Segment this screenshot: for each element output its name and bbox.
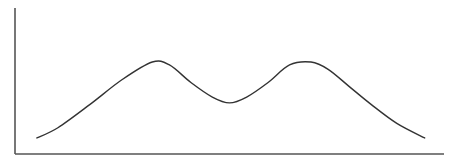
data-point-0-11 xyxy=(289,64,291,66)
data-point-0-10 xyxy=(267,81,269,83)
data-point-0-14 xyxy=(349,86,351,88)
data-point-0-8 xyxy=(229,102,231,104)
data-point-0-9 xyxy=(246,96,248,98)
line-chart xyxy=(0,0,454,161)
data-point-0-4 xyxy=(151,61,153,63)
data-point-0-0 xyxy=(36,137,38,139)
data-point-0-7 xyxy=(211,96,213,98)
data-point-0-12 xyxy=(310,61,312,63)
data-point-0-15 xyxy=(370,103,372,105)
data-point-0-1 xyxy=(57,127,59,129)
data-point-0-5 xyxy=(168,64,170,66)
data-point-0-17 xyxy=(424,137,426,139)
data-point-0-3 xyxy=(121,79,123,81)
data-point-0-16 xyxy=(396,122,398,124)
series-line-bimodal-curve xyxy=(37,61,425,138)
data-point-0-6 xyxy=(190,81,192,83)
series-layer xyxy=(36,61,426,139)
data-point-0-13 xyxy=(327,68,329,70)
data-point-0-2 xyxy=(89,103,91,105)
